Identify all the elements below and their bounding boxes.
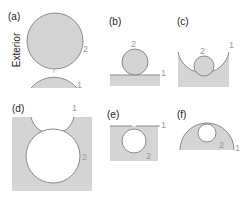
- panel-label-f: (f): [177, 109, 186, 120]
- surface-2-cavity: [26, 129, 80, 183]
- panel-label-a: (a): [8, 11, 20, 22]
- surface-2-circle: [27, 13, 83, 69]
- surface-1-plane: [110, 75, 160, 86]
- contact-diagram: Exterior Interior (a) 2 1 (b) 2 1 (c) 2 …: [0, 0, 246, 199]
- surface-1-cap: [31, 77, 77, 88]
- panel-c: (c) 2 1: [177, 16, 234, 87]
- label-2: 2: [200, 46, 205, 56]
- panel-f: (f) 2 1: [177, 109, 240, 153]
- row-label-exterior: Exterior: [11, 32, 22, 67]
- panel-e: (e) 1 2: [107, 109, 166, 161]
- label-2: 2: [219, 140, 224, 150]
- label-1: 1: [161, 68, 166, 78]
- panel-d: (d) 1 2: [12, 103, 92, 191]
- panel-b: (b) 2 1: [109, 16, 166, 86]
- surface-2-cavity: [198, 124, 216, 142]
- surface-2-circle: [194, 56, 214, 76]
- panel-label-e: (e): [107, 109, 119, 120]
- label-1: 1: [229, 40, 234, 50]
- panel-label-c: (c): [177, 16, 189, 27]
- label-1: 1: [77, 80, 82, 90]
- surface-2-cavity: [122, 129, 146, 153]
- label-2: 2: [83, 44, 88, 54]
- label-2: 2: [82, 152, 87, 162]
- panel-label-d: (d): [12, 103, 24, 114]
- label-1: 1: [235, 143, 240, 153]
- label-2: 2: [131, 39, 136, 49]
- label-1: 1: [161, 120, 166, 130]
- panel-label-b: (b): [109, 16, 121, 27]
- label-2: 2: [146, 151, 151, 161]
- label-1: 1: [72, 103, 77, 113]
- surface-2-circle: [122, 49, 148, 75]
